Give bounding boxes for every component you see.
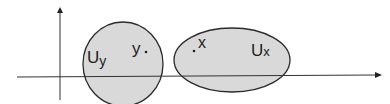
diagram-canvas: Uy y x Ux (0, 0, 390, 104)
point-x (193, 50, 196, 53)
y-axis-arrow-icon (57, 7, 63, 13)
point-y (145, 51, 148, 54)
label-ux-main: Ux (251, 41, 270, 60)
x-axis-arrow-icon (375, 72, 382, 78)
point-y-label: y (132, 39, 141, 58)
neighborhood-ux (174, 28, 290, 92)
point-x-label: x (198, 34, 206, 51)
